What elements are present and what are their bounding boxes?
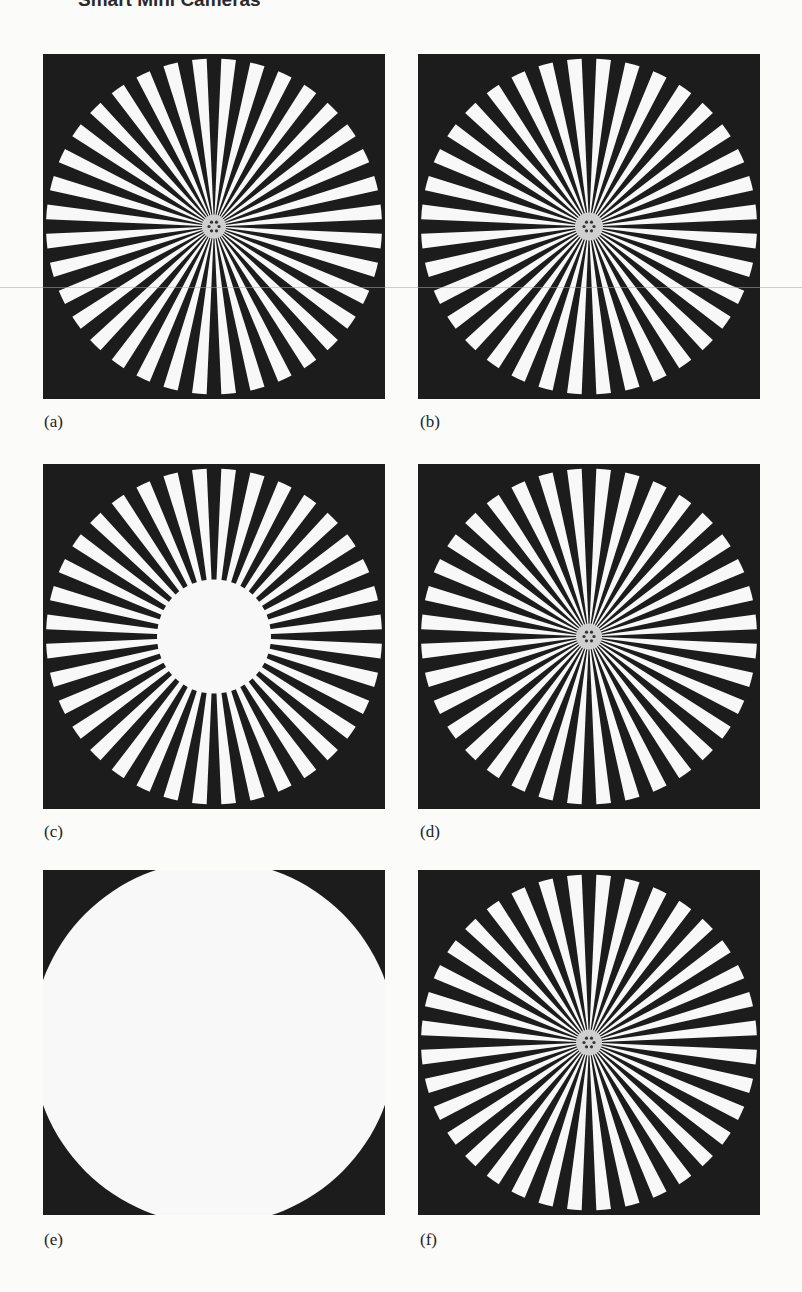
siemens-star-image [43, 870, 385, 1215]
figure-panel-a [43, 54, 385, 399]
running-head: Smart Mini Cameras [0, 0, 400, 11]
siemens-star-image [43, 54, 385, 399]
figure-panel-c [43, 464, 385, 809]
panel-label-c: (c) [44, 822, 63, 842]
panel-label-a: (a) [44, 412, 63, 432]
panel-label-b: (b) [420, 412, 440, 432]
panel-label-f: (f) [420, 1230, 437, 1250]
siemens-star-image [43, 464, 385, 809]
siemens-star-image [418, 464, 760, 809]
figure-panel-f [418, 870, 760, 1215]
figure-panel-b [418, 54, 760, 399]
siemens-star-image [418, 870, 760, 1215]
siemens-star-image [418, 54, 760, 399]
scan-artifact-line [0, 287, 802, 288]
figure-panel-d [418, 464, 760, 809]
running-head-title: Smart Mini Cameras [78, 0, 261, 11]
panel-label-d: (d) [420, 822, 440, 842]
panel-label-e: (e) [44, 1230, 63, 1250]
figure-panel-e [43, 870, 385, 1215]
